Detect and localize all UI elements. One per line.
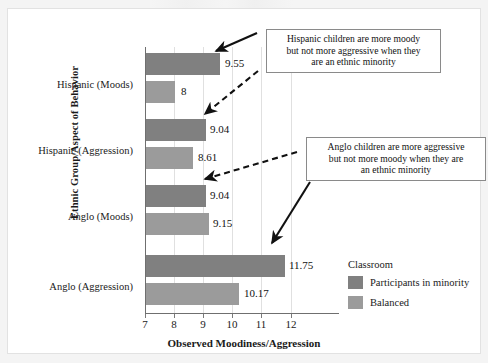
x-tick-label-10: 10	[217, 318, 247, 330]
legend-item-balanced: Balanced	[348, 296, 488, 309]
bar-anglo-moods-minority	[146, 185, 206, 207]
callout-hispanic-line2: but not more aggressive when they	[272, 45, 435, 57]
legend-item-participants-in-minority: Participants in minority	[348, 276, 488, 289]
bar-value-hispanic-aggression-minority: 9.04	[210, 123, 229, 135]
y-tick-label-anglo-aggression: Anglo (Aggression)	[8, 281, 133, 292]
y-tick-label-hispanic-aggression: Hispanic (Aggression)	[8, 145, 133, 156]
callout-hispanic-line3: are an ethnic minority	[272, 56, 435, 68]
legend-title: Classroom	[348, 259, 488, 270]
callout-anglo-line2: but not more moody when they are	[312, 153, 480, 165]
x-tick-label-12: 12	[276, 318, 306, 330]
bar-value-hispanic-moods-balanced: 8	[181, 85, 187, 97]
bar-value-anglo-moods-minority: 9.04	[210, 189, 229, 201]
bar-value-anglo-aggression-minority: 11.75	[289, 259, 313, 271]
callout-anglo-line3: an ethnic minority	[312, 164, 480, 176]
bar-value-hispanic-aggression-balanced: 8.61	[198, 151, 217, 163]
bar-anglo-moods-balanced	[146, 213, 209, 235]
scan-artifact	[150, 0, 330, 8]
x-axis-title: Observed Moodiness/Aggression	[104, 337, 384, 349]
x-tick-label-8: 8	[159, 318, 189, 330]
bar-hispanic-aggression-balanced	[146, 147, 193, 169]
annotation-callout-hispanic: Hispanic children are more moody but not…	[266, 29, 441, 73]
gridline-12	[291, 47, 292, 313]
bar-anglo-aggression-balanced	[146, 283, 239, 305]
y-tick-label-anglo-moods: Anglo (Moods)	[8, 211, 133, 222]
chart-card: Ethnic Group/Aspect of Behavior Hispanic…	[8, 9, 480, 353]
annotation-callout-anglo: Anglo children are more aggressive but n…	[306, 137, 486, 181]
x-tick-label-9: 9	[188, 318, 218, 330]
legend: Classroom Participants in minority Balan…	[348, 259, 488, 316]
callout-hispanic-line1: Hispanic children are more moody	[272, 33, 435, 45]
bar-hispanic-moods-minority	[146, 53, 220, 75]
legend-label-minority: Participants in minority	[370, 277, 469, 288]
bar-value-anglo-moods-balanced: 9.15	[213, 217, 232, 229]
bar-anglo-aggression-minority	[146, 255, 285, 277]
x-tick-label-7: 7	[130, 318, 160, 330]
y-tick-label-hispanic-moods: Hispanic (Moods)	[8, 79, 133, 90]
bar-hispanic-aggression-minority	[146, 119, 206, 141]
legend-swatch-minority	[348, 276, 363, 289]
legend-swatch-balanced	[348, 296, 363, 309]
bar-value-hispanic-moods-minority: 9.55	[225, 57, 244, 69]
callout-anglo-line1: Anglo children are more aggressive	[312, 141, 480, 153]
x-tick-label-11: 11	[246, 318, 276, 330]
bar-value-anglo-aggression-balanced: 10.17	[244, 287, 269, 299]
bar-hispanic-moods-balanced	[146, 81, 175, 103]
legend-label-balanced: Balanced	[370, 297, 409, 308]
figure-container: Ethnic Group/Aspect of Behavior Hispanic…	[0, 0, 488, 363]
